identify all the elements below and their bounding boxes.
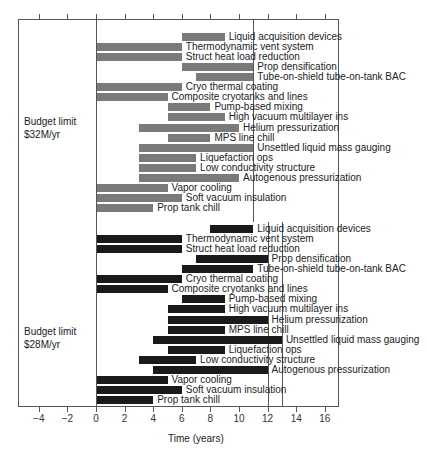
gantt-chart: −4−20246810121416 Budget limit$32M/yrLiq…: [0, 0, 427, 455]
task-bar: [139, 356, 196, 364]
x-tick-bottom: [325, 407, 326, 412]
task-label: Prop tank chill: [157, 395, 220, 405]
task-label: High vacuum multilayer ins: [229, 304, 349, 314]
task-bar: [96, 83, 182, 91]
task-bar: [139, 154, 196, 162]
task-bar: [196, 73, 253, 81]
x-tick-top: [125, 14, 126, 19]
task-bar: [153, 366, 267, 374]
x-tick-label: 8: [195, 413, 225, 424]
x-tick-label: 10: [224, 413, 254, 424]
x-tick-bottom: [239, 407, 240, 412]
x-tick-top: [239, 14, 240, 19]
x-tick-bottom: [268, 407, 269, 412]
x-tick-label: −2: [52, 413, 82, 424]
panel-label-line: Budget limit: [24, 115, 76, 128]
task-bar: [96, 376, 168, 384]
task-bar: [196, 255, 268, 263]
x-tick-bottom: [296, 407, 297, 412]
x-tick-top: [153, 14, 154, 19]
x-tick-label: 0: [81, 413, 111, 424]
x-tick-label: 2: [110, 413, 140, 424]
task-bar: [139, 164, 196, 172]
x-tick-bottom: [210, 407, 211, 412]
task-bar: [139, 174, 239, 182]
panel-label-line: $28M/yr: [24, 338, 76, 351]
x-tick-top: [182, 14, 183, 19]
panel-budget-label: Budget limit$32M/yr: [24, 115, 76, 141]
task-label: Unsettled liquid mass gauging: [257, 143, 390, 153]
task-label: Unsettled liquid mass gauging: [286, 335, 419, 345]
x-tick-top: [210, 14, 211, 19]
task-bar: [96, 275, 182, 283]
task-bar: [168, 134, 211, 142]
x-tick-label: 12: [253, 413, 283, 424]
task-bar: [96, 235, 182, 243]
x-tick-label: −4: [24, 413, 54, 424]
task-bar: [96, 204, 153, 212]
x-tick-label: 16: [310, 413, 340, 424]
task-bar: [96, 93, 168, 101]
x-tick-top: [296, 14, 297, 19]
x-tick-bottom: [39, 407, 40, 412]
x-tick-label: 14: [281, 413, 311, 424]
x-tick-bottom: [153, 407, 154, 412]
task-bar: [168, 316, 268, 324]
task-bar: [96, 194, 182, 202]
x-tick-top: [67, 14, 68, 19]
x-tick-bottom: [67, 407, 68, 412]
task-bar: [210, 225, 253, 233]
x-tick-top: [268, 14, 269, 19]
x-axis-label: Time (years): [168, 433, 224, 444]
x-tick-top: [325, 14, 326, 19]
task-bar: [96, 245, 182, 253]
task-bar: [96, 53, 182, 61]
x-tick-label: 4: [138, 413, 168, 424]
task-bar: [182, 295, 225, 303]
panel-label-line: Budget limit: [24, 325, 76, 338]
panel-budget-label: Budget limit$28M/yr: [24, 325, 76, 351]
task-bar: [139, 144, 253, 152]
task-bar: [96, 43, 182, 51]
task-bar: [96, 285, 168, 293]
task-bar: [96, 396, 153, 404]
task-bar: [168, 346, 225, 354]
task-bar: [168, 103, 211, 111]
task-label: Autogenous pressurization: [243, 173, 361, 183]
task-bar: [168, 326, 225, 334]
x-tick-bottom: [96, 407, 97, 412]
task-label: Tube-on-shield tube-on-tank BAC: [257, 264, 406, 274]
x-tick-bottom: [182, 407, 183, 412]
task-bar: [182, 63, 254, 71]
task-bar: [96, 386, 182, 394]
x-tick-top: [39, 14, 40, 19]
x-tick-bottom: [125, 407, 126, 412]
task-bar: [182, 265, 254, 273]
x-tick-label: 6: [167, 413, 197, 424]
task-label: Autogenous pressurization: [272, 365, 390, 375]
task-bar: [153, 336, 282, 344]
task-bar: [168, 305, 225, 313]
task-label: High vacuum multilayer ins: [229, 112, 349, 122]
panel-label-line: $32M/yr: [24, 128, 76, 141]
zero-line: [96, 19, 97, 407]
task-bar: [182, 33, 225, 41]
task-bar: [96, 184, 168, 192]
task-bar: [168, 113, 225, 121]
task-label: Tube-on-shield tube-on-tank BAC: [257, 72, 406, 82]
task-label: Prop tank chill: [157, 203, 220, 213]
task-bar: [139, 124, 239, 132]
task-label: MPS line chill: [229, 325, 289, 335]
